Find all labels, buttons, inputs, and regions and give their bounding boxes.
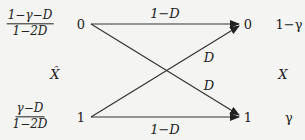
output-node-0: 0 [244, 18, 252, 31]
input-node-1: 1 [77, 111, 85, 124]
edge-0-to-1 [91, 24, 239, 115]
edge-label-0-to-0: 1−D [150, 7, 180, 20]
edge-1-to-0 [91, 26, 239, 117]
input-prior-1-numerator: γ−D [16, 102, 45, 117]
input-prior-1: γ−D 1−2D [13, 102, 48, 131]
output-node-1: 1 [244, 111, 252, 124]
output-variable-label: X [278, 68, 287, 81]
output-probability-1: γ [285, 111, 293, 124]
binary-channel-diagram: 1−γ−D 1−2D γ−D 1−2D X̂ 0 1 0 1 1−D D D 1… [0, 0, 305, 140]
edge-label-1-to-0: D [204, 51, 214, 64]
input-prior-0-denominator: 1−2D [13, 25, 48, 39]
output-probability-0: 1−γ [276, 18, 303, 31]
input-node-0: 0 [77, 18, 85, 31]
input-prior-1-denominator: 1−2D [13, 118, 48, 132]
input-variable-symbol: X̂ [50, 67, 59, 82]
edge-label-1-to-1: 1−D [150, 123, 180, 136]
input-prior-0: 1−γ−D 1−2D [7, 9, 54, 38]
edge-label-0-to-1: D [204, 79, 214, 92]
input-variable-label: X̂ [50, 68, 59, 81]
input-prior-0-numerator: 1−γ−D [7, 9, 54, 24]
